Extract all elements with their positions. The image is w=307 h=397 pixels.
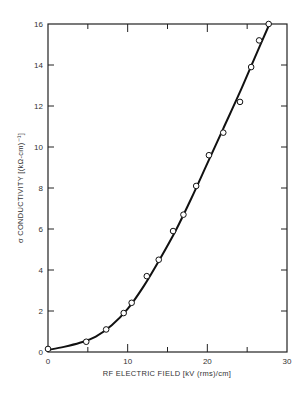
y-tick-label: 0 [39,348,44,357]
data-point-marker [256,38,262,44]
x-tick-label: 20 [203,357,212,366]
chart: 0102030 0246810121416 RF ELECTRIC FIELD … [0,0,307,397]
y-axis-label: σ CONDUCTIVITY [(kΩ-cm)⁻¹] [16,133,25,243]
data-point-marker [121,310,127,316]
data-point-marker [206,152,212,158]
plot-frame [48,24,287,352]
x-tick-label: 30 [283,357,292,366]
x-tick-label: 0 [46,357,51,366]
data-point-marker [170,228,176,234]
y-tick-label: 16 [34,20,43,29]
x-tick-label: 10 [123,357,132,366]
y-tick-label: 2 [39,307,44,316]
y-tick-label: 8 [39,184,44,193]
data-point-marker [144,273,150,279]
data-point-marker [181,212,187,218]
data-point-marker [193,183,199,189]
y-tick-label: 10 [34,143,43,152]
y-tick-label: 14 [34,61,43,70]
data-point-marker [45,346,51,352]
data-point-marker [248,64,254,70]
data-point-marker [156,257,162,263]
data-point-marker [83,339,89,345]
fit-curve [48,24,269,350]
data-point-marker [266,21,272,27]
y-tick-label: 6 [39,225,44,234]
data-point-marker [103,327,109,333]
data-point-marker [220,130,226,136]
y-tick-label: 12 [34,102,43,111]
data-point-marker [237,99,243,105]
x-axis-ticks: 0102030 [46,24,292,366]
data-markers [45,21,271,352]
x-axis-label: RF ELECTRIC FIELD [kV (rms)/cm] [103,369,231,378]
data-point-marker [129,300,135,306]
y-tick-label: 4 [39,266,44,275]
